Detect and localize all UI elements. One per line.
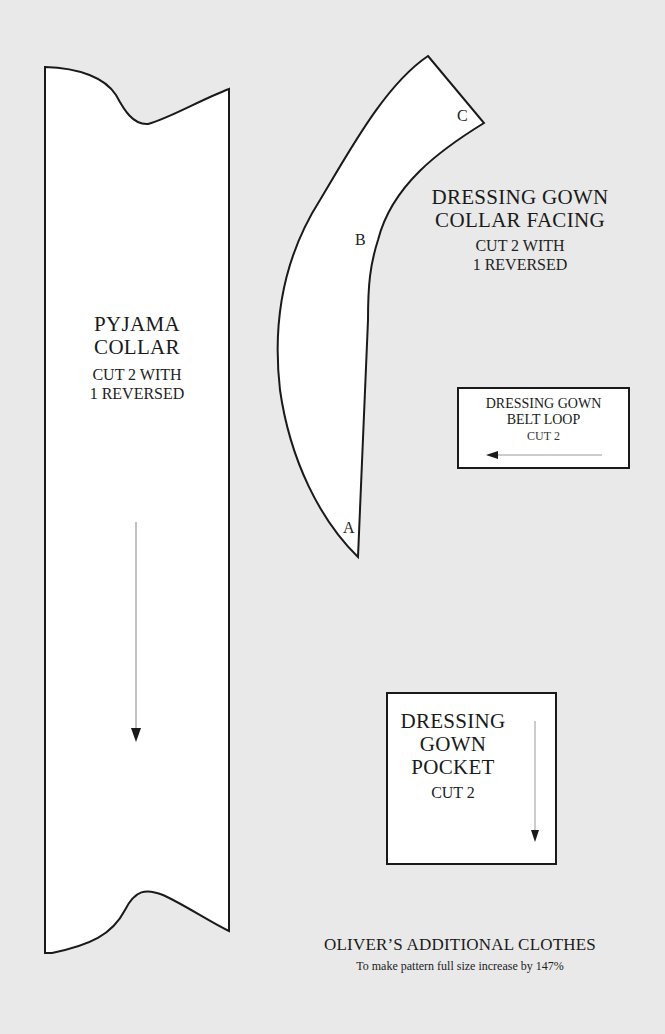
collar-facing-title-2: COLLAR FACING — [420, 209, 620, 232]
collar-facing-title-1: DRESSING GOWN — [420, 186, 620, 209]
pyjama-collar-shape — [45, 67, 229, 953]
collar-facing-instruction-2: 1 REVERSED — [420, 255, 620, 274]
footer-note: To make pattern full size increase by 14… — [290, 958, 630, 974]
belt-loop-title-1: DRESSING GOWN — [459, 396, 628, 412]
belt-loop-title-2: BELT LOOP — [459, 412, 628, 428]
pocket-title-3: POCKET — [388, 756, 518, 779]
belt-loop-piece: DRESSING GOWN BELT LOOP CUT 2 — [457, 387, 630, 469]
footer: OLIVER’S ADDITIONAL CLOTHES To make patt… — [290, 935, 630, 974]
pattern-shapes — [0, 0, 665, 1034]
marker-b: B — [355, 231, 366, 249]
pocket-instruction: CUT 2 — [388, 783, 518, 802]
marker-a: A — [343, 519, 355, 537]
pyjama-collar-title-1: PYJAMA — [45, 313, 229, 336]
marker-c: C — [457, 107, 468, 125]
collar-facing-shape — [278, 56, 484, 557]
pocket-title-1: DRESSING — [388, 710, 518, 733]
collar-facing-label: DRESSING GOWN COLLAR FACING CUT 2 WITH 1… — [420, 186, 620, 274]
pyjama-collar-instruction-2: 1 REVERSED — [45, 384, 229, 403]
pocket-piece: DRESSING GOWN POCKET CUT 2 — [386, 692, 557, 865]
footer-title: OLIVER’S ADDITIONAL CLOTHES — [290, 935, 630, 955]
belt-loop-instruction: CUT 2 — [459, 428, 628, 444]
pyjama-collar-label: PYJAMA COLLAR CUT 2 WITH 1 REVERSED — [45, 313, 229, 403]
pyjama-collar-title-2: COLLAR — [45, 336, 229, 359]
belt-loop-label: DRESSING GOWN BELT LOOP CUT 2 — [459, 396, 628, 444]
pocket-title-2: GOWN — [388, 733, 518, 756]
pocket-label: DRESSING GOWN POCKET CUT 2 — [388, 710, 518, 802]
collar-facing-instruction-1: CUT 2 WITH — [420, 236, 620, 255]
pyjama-collar-instruction-1: CUT 2 WITH — [45, 365, 229, 384]
